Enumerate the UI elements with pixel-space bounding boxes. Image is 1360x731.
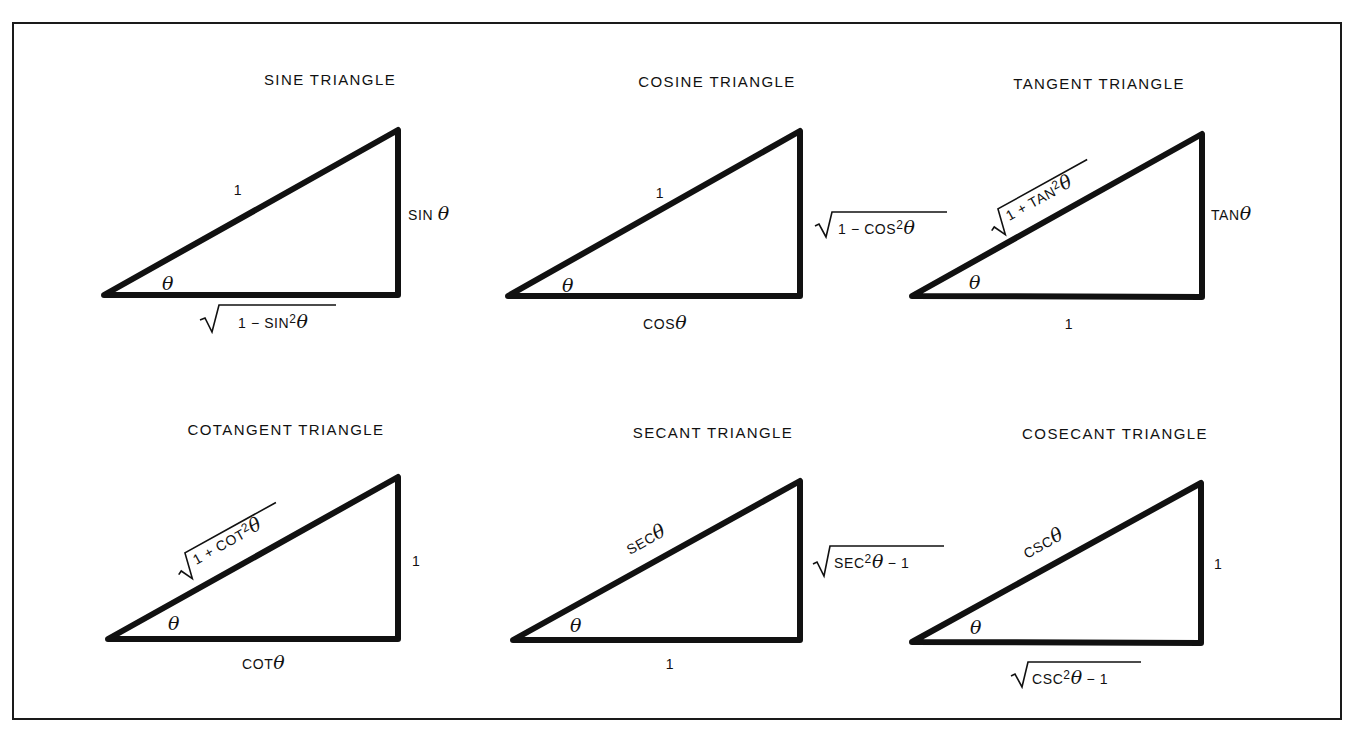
right-triangle xyxy=(508,131,800,296)
adjacent-label: 1 − SIN2θ xyxy=(200,305,336,332)
adjacent-label: COSθ xyxy=(643,311,687,333)
panel-title: SECANT TRIANGLE xyxy=(633,424,793,441)
right-triangle xyxy=(513,481,800,640)
right-triangle xyxy=(912,134,1202,297)
opposite-label: 1 xyxy=(412,553,420,569)
svg-text:SEC2θ − 1: SEC2θ − 1 xyxy=(834,550,909,572)
svg-text:1 + TAN2θ: 1 + TAN2θ xyxy=(1000,169,1075,224)
angle-theta: θ xyxy=(162,272,174,294)
right-triangle xyxy=(912,483,1201,643)
angle-theta: θ xyxy=(970,616,982,638)
adjacent-label: 1 xyxy=(1065,316,1073,332)
opposite-label: 1 − COS2θ xyxy=(815,212,947,238)
svg-text:SECθ: SECθ xyxy=(621,519,669,559)
panel-title: COSINE TRIANGLE xyxy=(638,73,795,90)
right-triangle xyxy=(108,477,398,639)
opposite-label: 1 xyxy=(1214,556,1222,572)
panel-title: SINE TRIANGLE xyxy=(264,71,396,88)
panel-title: COSECANT TRIANGLE xyxy=(1022,425,1208,442)
panel-secant: SECANT TRIANGLE SECθ SEC2θ − 1 θ 1 xyxy=(513,424,944,672)
svg-text:1 − SIN2θ: 1 − SIN2θ xyxy=(238,310,309,332)
adjacent-label: COTθ xyxy=(242,651,285,673)
adjacent-label: CSC2θ − 1 xyxy=(1011,662,1141,688)
panel-tangent: TANGENT TRIANGLE 1 + TAN2θ TANθ θ 1 xyxy=(912,75,1252,332)
panel-title: TANGENT TRIANGLE xyxy=(1013,75,1185,92)
panel-cotangent: COTANGENT TRIANGLE 1 + COT2θ 1 θ COTθ xyxy=(108,421,420,673)
angle-theta: θ xyxy=(168,612,180,634)
right-triangle xyxy=(104,130,398,295)
hypotenuse-label: 1 xyxy=(234,182,242,198)
angle-theta: θ xyxy=(969,271,981,293)
panel-cosine: COSINE TRIANGLE 1 1 − COS2θ θ COSθ xyxy=(508,73,947,333)
hypotenuse-label: 1 xyxy=(656,185,664,201)
panel-sine: SINE TRIANGLE 1 SIN θ θ 1 − SIN2θ xyxy=(104,71,450,332)
panel-title: COTANGENT TRIANGLE xyxy=(188,421,385,438)
opposite-label: SEC2θ − 1 xyxy=(813,546,944,576)
trig-triangles-diagram: SINE TRIANGLE 1 SIN θ θ 1 − SIN2θ COSINE… xyxy=(0,0,1360,731)
panel-cosecant: COSECANT TRIANGLE CSCθ 1 θ CSC2θ − 1 xyxy=(912,425,1222,688)
hypotenuse-label: SECθ xyxy=(621,519,669,559)
hypotenuse-label: CSCθ xyxy=(1018,522,1067,562)
svg-text:1 − COS2θ: 1 − COS2θ xyxy=(838,216,916,238)
opposite-label: SIN θ xyxy=(408,202,450,224)
angle-theta: θ xyxy=(562,274,574,296)
adjacent-label: 1 xyxy=(666,656,674,672)
svg-text:CSC2θ − 1: CSC2θ − 1 xyxy=(1032,666,1108,688)
opposite-label: TANθ xyxy=(1211,202,1252,224)
svg-text:CSCθ: CSCθ xyxy=(1018,522,1067,562)
angle-theta: θ xyxy=(570,614,582,636)
